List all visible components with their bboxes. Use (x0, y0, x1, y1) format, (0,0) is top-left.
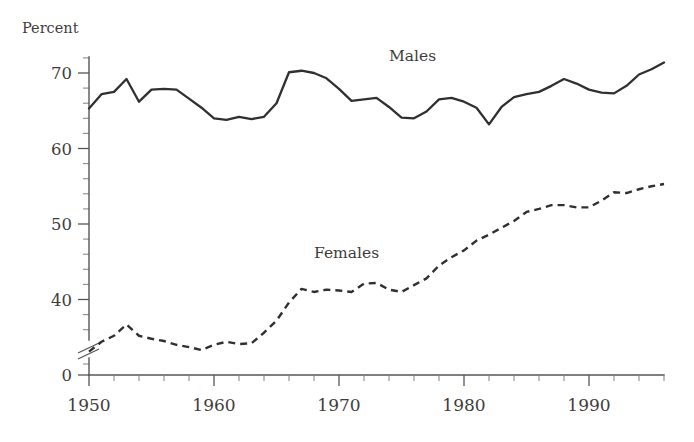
x-tick-label-1990: 1990 (567, 395, 610, 415)
chart-figure: Percent 040506070 19501960197019801990 M… (0, 0, 694, 442)
x-tick-label-1950: 1950 (67, 395, 110, 415)
y-tick-label-60: 60 (51, 140, 72, 159)
series-label-males: Males (389, 47, 436, 65)
series-line-males (89, 62, 664, 124)
y-tick-label-40: 40 (51, 291, 72, 310)
y-tick-label-70: 70 (51, 64, 72, 83)
x-axis-tick-labels: 19501960197019801990 (67, 395, 610, 415)
x-tick-label-1980: 1980 (442, 395, 485, 415)
line-chart-canvas: Percent 040506070 19501960197019801990 M… (0, 0, 694, 442)
y-axis-tick-labels: 040506070 (51, 64, 72, 385)
x-axis-ticks (89, 375, 664, 386)
y-axis-break-mark (78, 343, 99, 359)
y-axis-ticks (78, 58, 89, 375)
series-label-females: Females (314, 244, 379, 262)
y-tick-label-50: 50 (51, 215, 72, 234)
x-tick-label-1960: 1960 (192, 395, 235, 415)
x-tick-label-1970: 1970 (317, 395, 360, 415)
y-tick-label-0: 0 (62, 366, 73, 385)
y-axis-title: Percent (22, 20, 79, 36)
series-line-females (89, 184, 664, 352)
